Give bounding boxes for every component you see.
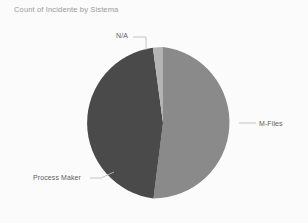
leader-line-na [133, 37, 146, 50]
pie-label-na: N/A [116, 31, 128, 40]
pie-slice-m-files[interactable] [154, 47, 230, 198]
pie-chart-visual: Count of Incidente by Sistema N/A M-File… [0, 0, 308, 223]
pie-label-process-maker: Process Maker [33, 173, 81, 182]
pie-slice-process-maker[interactable] [87, 48, 163, 199]
pie-label-m-files: M-Files [259, 119, 283, 128]
pie-chart-svg [0, 0, 308, 223]
